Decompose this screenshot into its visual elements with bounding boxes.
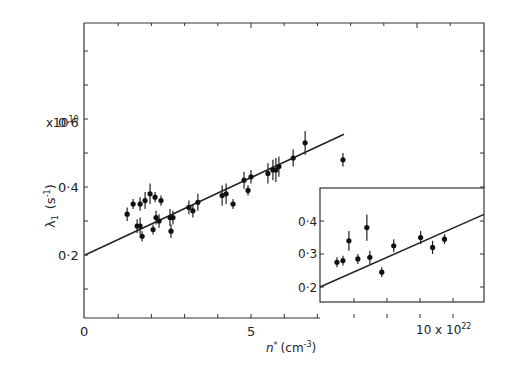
inset-y-tick-0.3: 0·3 — [298, 247, 317, 261]
x-tick-label-5: 5 — [247, 324, 255, 339]
data-point — [273, 158, 278, 182]
data-point — [241, 172, 246, 189]
y-tick-label-0.2: 0·2 — [58, 248, 79, 263]
data-point — [142, 192, 147, 209]
x-tick-label-0: 0 — [80, 324, 88, 339]
y-tick-label-0.6: 0·6 — [58, 115, 79, 130]
x-axis-title: n*(cm-3) — [266, 340, 316, 355]
inset-y-labels: 0·4 0·3 0·2 — [298, 215, 317, 295]
data-point — [276, 156, 281, 176]
y-tick-label-0.4: 0·4 — [58, 180, 79, 195]
data-point — [131, 199, 136, 209]
inset-y-tick-0.2: 0·2 — [298, 281, 317, 295]
data-point — [248, 170, 253, 184]
data-point — [220, 185, 225, 205]
data-point — [224, 184, 229, 204]
data-point — [195, 194, 200, 211]
data-point — [152, 192, 157, 202]
data-point — [265, 163, 270, 183]
data-point — [150, 224, 155, 234]
data-point — [158, 196, 163, 206]
scatter-chart: x1010 0·6 0·4 0·2 λ1(s-1) 0 5 10 x 1022 … — [0, 0, 508, 368]
data-point — [125, 207, 130, 221]
inset-y-tick-0.4: 0·4 — [298, 215, 317, 229]
data-point — [245, 185, 250, 195]
x-axis-labels: 0 5 10 x 1022 n*(cm-3) — [80, 322, 471, 355]
data-point — [291, 150, 296, 167]
data-point — [147, 184, 152, 204]
data-point — [230, 199, 235, 209]
x-tick-label-10: 10 x 1022 — [416, 322, 471, 337]
inset-plot: 0·4 0·3 0·2 — [298, 188, 484, 318]
data-point — [340, 153, 345, 167]
data-point — [168, 224, 173, 238]
data-point — [138, 197, 143, 211]
inset-frame — [320, 188, 484, 302]
